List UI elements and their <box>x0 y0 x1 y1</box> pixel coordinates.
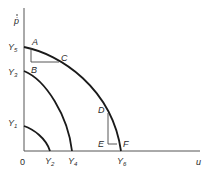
point-label-d: D <box>98 105 105 115</box>
point-label-f: F <box>123 139 129 149</box>
label-y3: Y3 <box>8 67 18 78</box>
origin-label: 0 <box>20 157 25 167</box>
p-dot-accent <box>16 14 18 16</box>
point-label-e: E <box>98 139 105 149</box>
label-y6: Y6 <box>117 156 127 167</box>
x-axis-label: u <box>196 157 201 167</box>
y-axis-label: ṗ <box>13 16 19 26</box>
frontier-diagram: ṗ u 0 Y5 Y3 Y1 Y2 Y4 Y6 A B C D E F <box>0 0 216 172</box>
label-y5: Y5 <box>8 42 18 53</box>
point-label-c: C <box>61 53 68 63</box>
point-label-b: B <box>31 65 37 75</box>
label-y2: Y2 <box>45 156 55 167</box>
label-y4: Y4 <box>68 156 78 167</box>
point-label-a: A <box>31 37 38 47</box>
middle-frontier-curve <box>24 71 72 151</box>
inner-frontier-curve <box>24 126 50 151</box>
label-y1: Y1 <box>8 118 17 129</box>
